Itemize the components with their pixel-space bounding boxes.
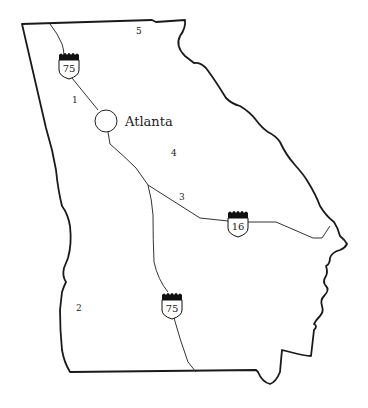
georgia-map: Atlanta 1 2 3 4 5 75 16 75 <box>0 0 368 408</box>
region-label-3: 3 <box>179 192 185 202</box>
road-i75-north <box>50 24 64 56</box>
road-i75-to-atlanta <box>72 78 98 110</box>
road-atlanta-southeast <box>108 132 148 185</box>
region-label-2: 2 <box>76 303 82 313</box>
region-label-4: 4 <box>171 148 177 158</box>
interstate-shield-16: 16 <box>228 211 248 237</box>
road-i75-south <box>148 185 196 372</box>
shield-route-number: 75 <box>63 63 76 74</box>
atlanta-marker[interactable] <box>95 110 117 132</box>
shield-crown-icon <box>59 53 79 60</box>
region-label-1: 1 <box>72 95 78 105</box>
city-label-atlanta: Atlanta <box>124 114 173 129</box>
interstate-shield-75-south: 75 <box>162 293 182 319</box>
shield-crown-icon <box>162 293 182 300</box>
region-label-5: 5 <box>136 26 142 36</box>
interstate-shield-75-north: 75 <box>59 53 79 79</box>
shield-crown-icon <box>228 211 248 218</box>
shield-route-number: 16 <box>232 221 245 232</box>
shield-route-number: 75 <box>166 303 179 314</box>
